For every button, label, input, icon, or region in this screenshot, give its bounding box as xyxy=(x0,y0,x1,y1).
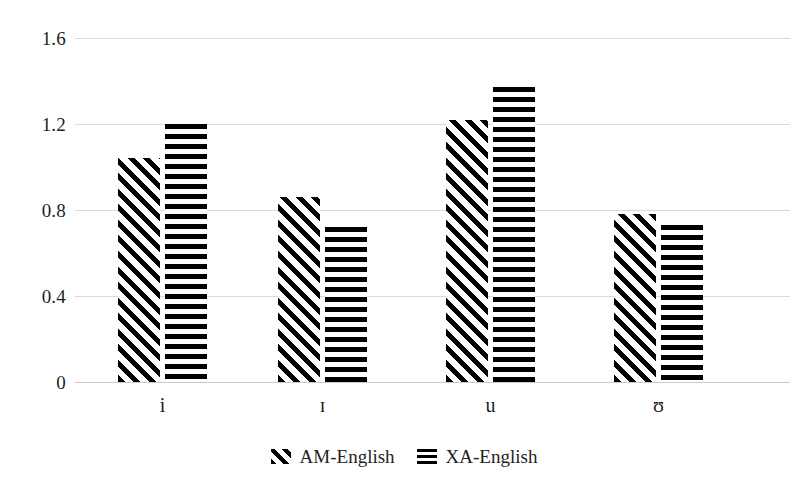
bars-layer xyxy=(75,38,790,382)
y-axis: 1.6 1.2 0.8 0.4 0 xyxy=(0,38,66,382)
bar-xa-english-upsilon[interactable] xyxy=(661,225,703,382)
bar-xa-english-u[interactable] xyxy=(493,87,535,382)
bar-group-small-capital-i xyxy=(278,38,367,382)
axis-baseline-0 xyxy=(75,382,790,383)
x-tick-label-upsilon: ʊ xyxy=(614,392,703,418)
legend-entry-am-english[interactable]: AM-English xyxy=(271,447,395,466)
bar-group-upsilon xyxy=(614,38,703,382)
y-tick-label-0_8: 0.8 xyxy=(6,201,66,220)
legend-label-xa-english: XA-English xyxy=(446,447,538,466)
x-axis: i ɪ u ʊ xyxy=(75,392,790,426)
bar-am-english-small-capital-i[interactable] xyxy=(278,197,320,382)
legend: AM-English XA-English xyxy=(0,447,808,466)
x-tick-label-u: u xyxy=(446,392,535,418)
bar-group-u xyxy=(446,38,535,382)
bar-group-i xyxy=(118,38,207,382)
bar-chart: 1.6 1.2 0.8 0.4 0 i ɪ u ʊ xyxy=(0,0,808,503)
bar-am-english-u[interactable] xyxy=(446,120,488,382)
horizontal-stripes-swatch-icon xyxy=(417,449,437,464)
bar-xa-english-i[interactable] xyxy=(165,124,207,382)
bar-am-english-i[interactable] xyxy=(118,158,160,382)
bar-am-english-upsilon[interactable] xyxy=(614,214,656,382)
diagonal-hatch-swatch-icon xyxy=(271,449,291,464)
x-tick-label-small-capital-i: ɪ xyxy=(278,392,367,418)
y-tick-label-0: 0 xyxy=(6,373,66,392)
y-tick-label-1_2: 1.2 xyxy=(6,115,66,134)
x-tick-label-i: i xyxy=(118,392,207,418)
legend-entry-xa-english[interactable]: XA-English xyxy=(417,447,538,466)
y-tick-label-1_6: 1.6 xyxy=(6,29,66,48)
bar-xa-english-small-capital-i[interactable] xyxy=(325,227,367,382)
y-tick-label-0_4: 0.4 xyxy=(6,287,66,306)
legend-label-am-english: AM-English xyxy=(300,447,395,466)
